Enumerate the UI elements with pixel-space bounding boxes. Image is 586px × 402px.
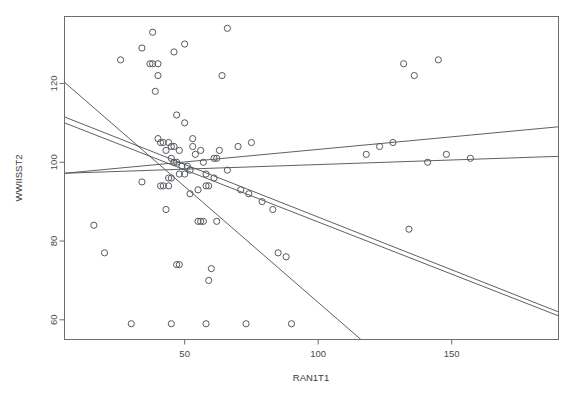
y-tick-label: 80 (48, 236, 59, 247)
y-tick-label: 120 (48, 76, 59, 92)
x-tick-label: 100 (310, 348, 326, 359)
x-tick-label: 150 (444, 348, 460, 359)
plot-background (0, 0, 586, 402)
scatter-plot-figure: 50100150 6080100120 RAN1T1 WWIISST2 (0, 0, 586, 402)
plot-canvas: 50100150 6080100120 RAN1T1 WWIISST2 (0, 0, 586, 402)
y-axis-title: WWIISST2 (13, 155, 24, 202)
x-tick-label: 50 (179, 348, 190, 359)
y-tick-label: 60 (48, 315, 59, 326)
x-axis-title: RAN1T1 (293, 372, 329, 383)
y-tick-label: 100 (48, 154, 59, 170)
